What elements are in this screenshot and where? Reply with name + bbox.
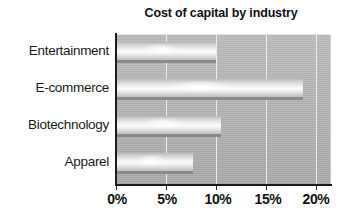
- x-tick-5: [166, 186, 167, 190]
- x-axis-line: [115, 184, 332, 186]
- y-axis-line: [115, 33, 117, 186]
- x-tick-0: [116, 186, 117, 190]
- bar-entertainment: [116, 42, 216, 63]
- x-tick-20: [316, 186, 317, 190]
- category-label-biotechnology: Biotechnology: [0, 117, 109, 132]
- bar-highlight: [145, 118, 181, 129]
- bar-highlight: [138, 155, 164, 166]
- gridline-15-percent: [266, 34, 267, 185]
- plot-area: [116, 34, 331, 185]
- bar-e-commerce: [116, 79, 303, 100]
- plot-top-border: [116, 34, 331, 35]
- x-tick-10: [216, 186, 217, 190]
- bar-apparel: [116, 153, 193, 174]
- gridline-10-percent: [216, 34, 217, 185]
- bar-biotechnology: [116, 116, 221, 137]
- chart-title: Cost of capital by industry: [104, 6, 338, 20]
- bar-chart-figure: Cost of capital by industry Entertainmen…: [0, 0, 338, 213]
- bar-highlight: [144, 44, 178, 55]
- x-tick-label-20: 20%: [286, 191, 338, 207]
- category-axis-labels: Entertainment E-commerce Biotechnology A…: [0, 34, 112, 185]
- gridline-20-percent: [316, 34, 317, 185]
- x-tick-15: [266, 186, 267, 190]
- value-axis-labels: 0% 5% 10% 15% 20%: [0, 191, 338, 213]
- bar-highlight: [168, 81, 232, 92]
- category-label-entertainment: Entertainment: [0, 43, 109, 58]
- category-label-apparel: Apparel: [0, 154, 109, 169]
- category-label-e-commerce: E-commerce: [0, 80, 109, 95]
